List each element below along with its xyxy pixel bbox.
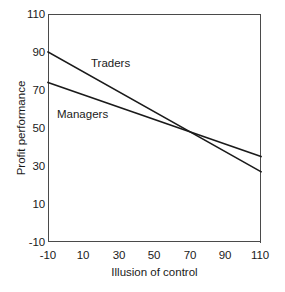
series-lines [48,14,261,242]
chart-figure: 110 90 70 50 30 10 -10 Traders Managers … [0,0,285,292]
x-axis-tick-labels: -10 10 30 50 70 90 110 [0,249,285,265]
x-axis-title: Illusion of control [48,266,261,279]
series-label-managers: Managers [56,108,109,121]
page-caption-sliver [0,283,285,292]
x-axis-tick-label: 110 [238,249,282,261]
y-axis-title: Profit performance [14,14,28,242]
series-label-traders: Traders [90,57,131,70]
